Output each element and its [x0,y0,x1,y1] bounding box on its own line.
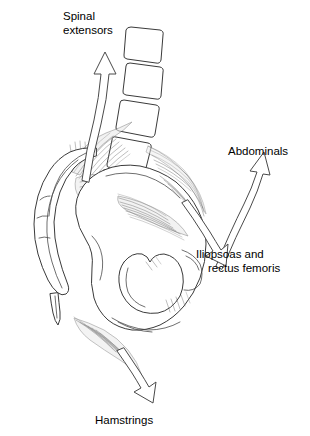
anatomy-diagram: Spinal extensors Abdominals Iliopsoas an… [0,0,310,436]
label-spinal-extensors-line1: Spinal [63,10,95,22]
label-abdominals: Abdominals [228,145,288,157]
label-spinal-extensors-line2: extensors [63,24,113,36]
vertebra-1 [124,27,163,63]
vertebra-2 [123,63,163,99]
hamstrings-arrow [117,348,156,403]
label-hamstrings: Hamstrings [95,414,153,426]
vertebra-3 [116,100,159,137]
label-iliopsoas-line2: rectus femoris [208,262,280,274]
label-iliopsoas-line1: Iliopsoas and [196,248,264,260]
ilium-pelvis [76,165,206,332]
